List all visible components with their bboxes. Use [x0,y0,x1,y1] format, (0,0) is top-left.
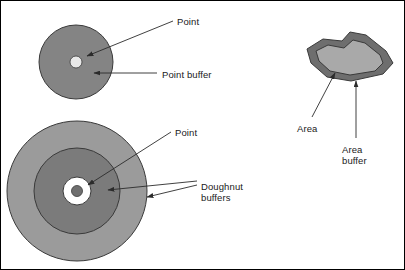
diagram-canvas [1,1,405,270]
leader-line-area [312,73,335,117]
label-area: Area [297,123,317,134]
doughnut-point-marker-icon [72,186,83,197]
leader-line-doughnut-outer [147,185,197,197]
label-doughnut-buffers-line1: Doughnut [201,181,243,192]
label-area-buffer-line1: Area [342,144,362,155]
label-point-buffer: Point buffer [162,69,212,80]
label-area-buffer-line2: buffer [342,155,367,166]
label-doughnut-buffers-line2: buffers [201,192,231,203]
point-marker-icon [70,56,82,68]
label-point-bottom: Point [175,127,197,138]
buffer-diagram-figure: Point Point buffer Point Doughnut buffer… [0,0,405,270]
label-point-top: Point [177,16,199,27]
